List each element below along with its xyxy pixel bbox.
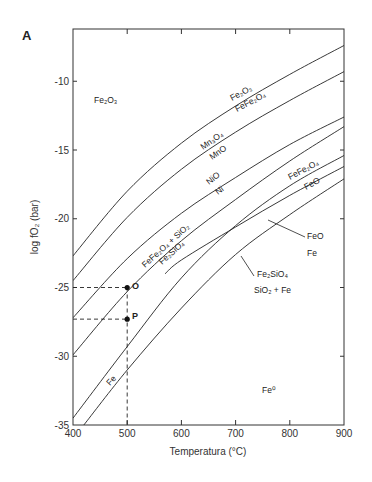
curve-label-fe: Fe bbox=[104, 373, 118, 387]
point-label-p: P bbox=[132, 311, 138, 321]
x-tick-label: 700 bbox=[227, 428, 244, 439]
y-tick-label: -25 bbox=[55, 282, 70, 293]
region-label-fe0: Fe⁰ bbox=[262, 385, 276, 395]
buffer-curve-0 bbox=[73, 46, 344, 256]
x-axis-title: Temperatura (°C) bbox=[170, 446, 247, 457]
y-tick-label: -15 bbox=[55, 145, 70, 156]
x-tick-label: 500 bbox=[119, 428, 136, 439]
chart-svg: A 400500600700800900 -10-15-20-25-30-35 … bbox=[0, 0, 372, 482]
curve-label-feo-wi: FeO bbox=[307, 231, 324, 241]
leader-line-qif bbox=[241, 256, 254, 276]
buffer-curve-3 bbox=[73, 127, 344, 355]
curve-label-fe2sio4: Fe₂SiO₄ bbox=[257, 269, 288, 279]
y-tick-label: -20 bbox=[55, 213, 70, 224]
oxygen-buffer-chart: A 400500600700800900 -10-15-20-25-30-35 … bbox=[0, 0, 372, 482]
y-axis-title: log fO₂ (bar) bbox=[29, 200, 40, 254]
curve-label-ni: Ni bbox=[213, 184, 226, 197]
x-tick-label: 600 bbox=[173, 428, 190, 439]
point-label-o: O bbox=[132, 281, 139, 291]
curve-label-fe-wi: Fe bbox=[307, 248, 317, 258]
x-tick-label: 900 bbox=[336, 428, 353, 439]
x-tick-label: 800 bbox=[281, 428, 298, 439]
leader-line-feo-fe bbox=[268, 220, 305, 237]
y-axis: -10-15-20-25-30-35 bbox=[55, 76, 344, 431]
curve-label-sio2-fe: SiO₂ + Fe bbox=[254, 285, 291, 295]
region-label-fe2o3: Fe₂O₃ bbox=[94, 95, 117, 105]
y-tick-label: -30 bbox=[55, 351, 70, 362]
curve-label-feo-mw: FeO bbox=[302, 175, 322, 192]
panel-label: A bbox=[22, 28, 32, 43]
data-point-o bbox=[125, 285, 130, 290]
y-tick-label: -10 bbox=[55, 76, 70, 87]
plot-border bbox=[73, 29, 344, 425]
data-point-p bbox=[125, 317, 130, 322]
y-tick-label: -35 bbox=[55, 420, 70, 431]
plot-frame bbox=[73, 29, 344, 425]
